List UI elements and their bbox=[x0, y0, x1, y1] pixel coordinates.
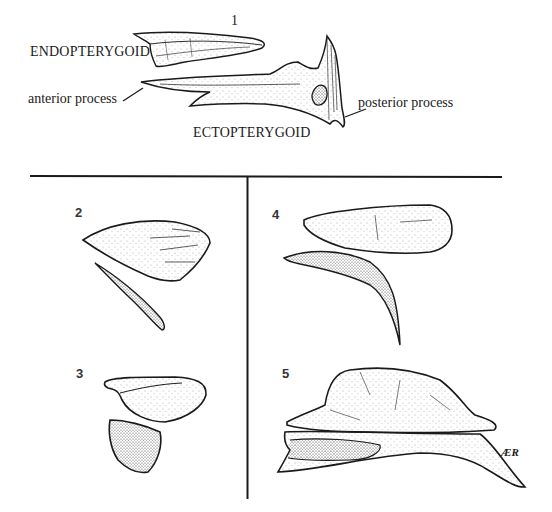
anterior-process-label: anterior process bbox=[28, 92, 117, 106]
endopterygoid-label: ENDOPTERYGOID bbox=[30, 45, 150, 59]
panel-3-number: 3 bbox=[76, 367, 83, 380]
ectopterygoid-label: ECTOPTERYGOID bbox=[193, 126, 310, 140]
panel-4-drawing bbox=[284, 205, 452, 345]
panel-5-number: 5 bbox=[282, 367, 289, 380]
panel-2-number: 2 bbox=[75, 206, 82, 219]
anterior-process-arrow bbox=[123, 88, 143, 101]
panel-1-number: 1 bbox=[231, 14, 238, 28]
panel-2-drawing bbox=[83, 221, 210, 330]
panel-5-drawing bbox=[278, 368, 525, 487]
posterior-process-arrow bbox=[345, 109, 366, 117]
horizontal-divider bbox=[30, 176, 502, 177]
artist-signature: ÆR bbox=[501, 447, 519, 458]
posterior-process-label: posterior process bbox=[358, 96, 453, 110]
panel-3-drawing bbox=[104, 377, 206, 473]
figure-drawings bbox=[0, 0, 552, 512]
panel-1-endopterygoid-drawing bbox=[134, 32, 264, 67]
panel-4-number: 4 bbox=[272, 208, 279, 221]
